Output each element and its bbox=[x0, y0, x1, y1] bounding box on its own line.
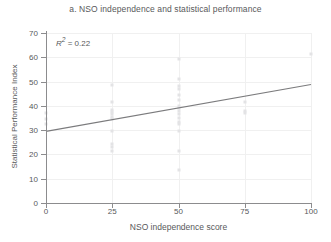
y-tick-mark bbox=[41, 130, 46, 131]
y-tick-label: 60 bbox=[2, 53, 38, 62]
y-axis-label: Statistical Performance Index bbox=[10, 32, 19, 202]
y-tick-label: 30 bbox=[2, 126, 38, 135]
y-tick-mark bbox=[41, 154, 46, 155]
y-tick-label: 70 bbox=[2, 29, 38, 38]
x-tick-label: 0 bbox=[26, 207, 66, 216]
x-tick-label: 100 bbox=[291, 207, 331, 216]
y-tick-label: 10 bbox=[2, 174, 38, 183]
y-axis-line bbox=[46, 31, 47, 205]
chart-figure: a. NSO independence and statistical perf… bbox=[0, 0, 331, 242]
x-tick-label: 75 bbox=[225, 207, 265, 216]
y-tick-mark bbox=[41, 106, 46, 107]
trend-line bbox=[0, 0, 331, 242]
y-tick-mark bbox=[41, 57, 46, 58]
y-tick-label: 50 bbox=[2, 77, 38, 86]
x-tick-label: 50 bbox=[159, 207, 199, 216]
y-tick-mark bbox=[41, 179, 46, 180]
r-squared-annotation: R2 = 0.22 bbox=[56, 36, 90, 48]
y-tick-mark bbox=[41, 33, 46, 34]
x-axis-label: NSO independence score bbox=[46, 222, 311, 232]
r2-value: = 0.22 bbox=[65, 39, 90, 48]
y-tick-mark bbox=[41, 82, 46, 83]
x-tick-label: 25 bbox=[92, 207, 132, 216]
y-tick-label: 20 bbox=[2, 150, 38, 159]
y-tick-label: 40 bbox=[2, 101, 38, 110]
y-tick-labels: 010203040506070 bbox=[0, 0, 38, 242]
